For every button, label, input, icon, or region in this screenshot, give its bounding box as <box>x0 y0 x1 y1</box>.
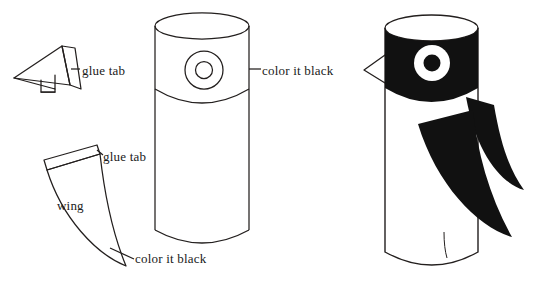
owl-craft-diagram: glue tab color it black glue tab wing co… <box>0 0 536 286</box>
label-wing: wing <box>57 199 84 212</box>
label-body-color-it-black: color it black <box>262 64 333 77</box>
owl-eye-pupil <box>424 55 441 72</box>
beak-glue-tab-shape <box>62 46 81 89</box>
assembled-owl <box>364 15 524 265</box>
cylinder-top-ellipse <box>155 13 249 39</box>
cylinder-band-arc <box>155 89 249 103</box>
beak-pattern <box>14 46 81 92</box>
cylinder-eye-inner <box>196 62 213 79</box>
label-beak-glue-tab: glue tab <box>82 64 125 77</box>
wing-glue-tab-strip <box>44 145 100 170</box>
owl-beak <box>364 55 385 83</box>
cylinder-bottom-curve <box>155 230 249 243</box>
body-cylinder-pattern <box>155 13 249 243</box>
cylinder-eye-outer <box>185 51 223 89</box>
label-wing-color-it-black: color it black <box>135 252 206 265</box>
beak-triangle <box>14 46 70 85</box>
diagram-artwork <box>0 0 536 286</box>
owl-top-ellipse <box>385 15 478 41</box>
label-wing-glue-tab: glue tab <box>103 150 146 163</box>
